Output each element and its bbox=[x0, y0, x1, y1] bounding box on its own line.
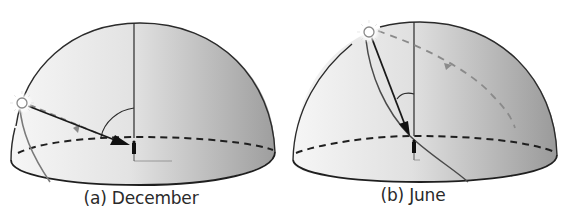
solar-angle-diagram bbox=[0, 0, 561, 215]
caption-june: (b) June bbox=[381, 185, 446, 205]
caption-december: (a) December bbox=[84, 188, 199, 208]
panel-december bbox=[10, 23, 275, 185]
panel-june bbox=[293, 20, 557, 182]
celestial-dome bbox=[293, 22, 557, 182]
